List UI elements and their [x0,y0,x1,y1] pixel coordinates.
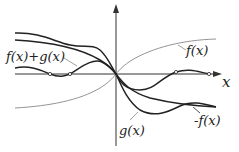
leader-g [130,112,138,120]
y-axis-arrow-icon [113,4,119,13]
label-neg-f: -f(x) [194,114,221,127]
intersection-point [48,72,51,75]
label-g: g(x) [119,124,145,137]
function-graph-diagram: f(x)+g(x) f(x) x -f(x) g(x) [0,0,239,152]
label-f-plus-g: f(x)+g(x) [6,50,65,63]
intersection-point [68,72,71,75]
label-x-axis: x [222,75,230,90]
intersection-point [174,70,177,73]
label-f: f(x) [186,44,208,57]
curve-f-plus-g [15,61,210,90]
leader-f [178,45,186,50]
intersection-point [207,72,210,75]
leader-sum [64,58,77,66]
x-axis-arrow-icon [213,71,222,77]
